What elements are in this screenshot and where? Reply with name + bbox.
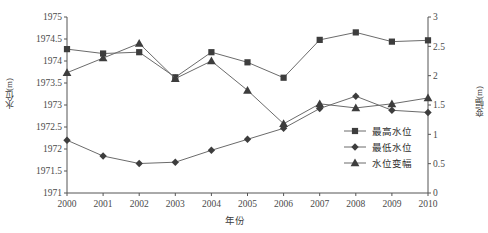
y2-tick-label: 3 [433,12,438,22]
data-point-diamond [388,107,395,114]
data-point-triangle [315,99,324,107]
data-point-triangle [351,159,360,167]
legend-label: 最低水位 [372,142,412,153]
x-tick-label: 2006 [274,199,293,209]
data-point-square [352,128,358,134]
data-point-triangle [63,68,72,76]
y2-tick-label: 2.5 [433,42,445,52]
x-tick-label: 2009 [382,199,401,209]
y-tick-label: 1973.5 [36,78,62,88]
data-point-square [64,46,70,52]
data-point-diamond [424,109,431,116]
chart-legend: 最高水位最低水位水位变幅 [344,126,412,169]
chart-plot: 19711971.519721972.519731973.519741974.5… [0,0,488,233]
y2-tick-label: 1.5 [433,100,445,110]
y-tick-label: 1973 [43,100,62,110]
data-point-triangle [243,86,252,94]
x-tick-label: 2008 [346,199,365,209]
series-0 [64,29,431,81]
legend-item-0: 最高水位 [344,126,412,137]
data-point-diamond [208,147,215,154]
y2-tick-label: 2 [433,71,438,81]
y-tick-label: 1974.5 [36,34,62,44]
chart-container: 水位(m) 变幅(m) 年份 19711971.519721972.519731… [0,0,488,233]
x-tick-label: 2000 [58,199,77,209]
chart-ticks [64,17,431,196]
series-line [67,32,428,77]
data-point-diamond [244,136,251,143]
data-point-diamond [136,160,143,167]
series-line [67,43,428,123]
y-tick-label: 1974 [43,56,62,66]
legend-label: 最高水位 [372,126,412,137]
x-tick-label: 2002 [130,199,149,209]
series-2 [63,39,433,127]
data-point-square [208,49,214,55]
x-tick-label: 2010 [419,199,438,209]
data-point-triangle [424,94,433,102]
y2-tick-label: 1 [433,130,438,140]
y-tick-label: 1971.5 [36,166,62,176]
data-point-diamond [99,152,106,159]
x-tick-label: 2007 [310,199,329,209]
x-tick-label: 2003 [166,199,185,209]
data-point-diamond [63,137,70,144]
chart-tick-labels: 19711971.519721972.519731973.519741974.5… [36,12,445,209]
y2-tick-label: 0 [433,188,438,198]
x-tick-label: 2004 [202,199,221,209]
data-point-square [353,29,359,35]
data-point-triangle [135,39,144,47]
data-point-square [281,75,287,81]
y-tick-label: 1972 [43,144,62,154]
data-point-square [244,59,250,65]
data-point-triangle [207,57,216,65]
data-point-diamond [351,143,358,150]
data-point-diamond [352,93,359,100]
data-point-square [136,49,142,55]
legend-label: 水位变幅 [372,158,412,169]
legend-item-1: 最低水位 [344,142,412,153]
x-tick-label: 2005 [238,199,257,209]
data-point-square [317,37,323,43]
legend-item-2: 水位变幅 [344,158,412,169]
data-point-square [425,37,431,43]
x-tick-label: 2001 [94,199,113,209]
y-tick-label: 1972.5 [36,122,62,132]
y-tick-label: 1975 [43,12,62,22]
data-point-diamond [172,159,179,166]
y-tick-label: 1971 [43,188,62,198]
data-point-square [389,39,395,45]
y2-tick-label: 0.5 [433,159,445,169]
